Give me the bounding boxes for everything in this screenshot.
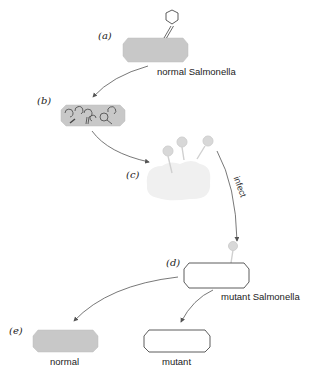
arrow-d-to-mutant	[181, 290, 213, 322]
cell-d-mutant	[184, 263, 249, 288]
cell-a-normal	[123, 38, 188, 62]
caption-normal-salmonella: normal Salmonella	[157, 66, 236, 77]
arrow-a-to-b	[93, 66, 148, 97]
cell-c-lysed	[147, 161, 210, 200]
step-label-c: (c)	[126, 169, 139, 180]
caption-normal: normal	[50, 356, 79, 367]
step-label-e: (e)	[9, 325, 23, 336]
arrow-infect	[217, 151, 237, 241]
caption-mutant: mutant	[162, 356, 191, 367]
caption-mutant-salmonella: mutant Salmonella	[221, 291, 300, 302]
cell-e-normal	[33, 330, 98, 352]
step-label-a: (a)	[98, 30, 112, 41]
step-label-d: (d)	[166, 257, 180, 268]
arrow-b-to-c	[92, 131, 149, 162]
diagram-canvas	[0, 0, 309, 383]
phage-a-icon	[164, 10, 178, 38]
phage-d-icon	[229, 242, 238, 264]
cell-e-mutant	[144, 330, 210, 352]
step-label-b: (b)	[37, 95, 51, 106]
arrow-d-to-normal	[74, 277, 178, 321]
cell-b-infected	[61, 105, 125, 126]
